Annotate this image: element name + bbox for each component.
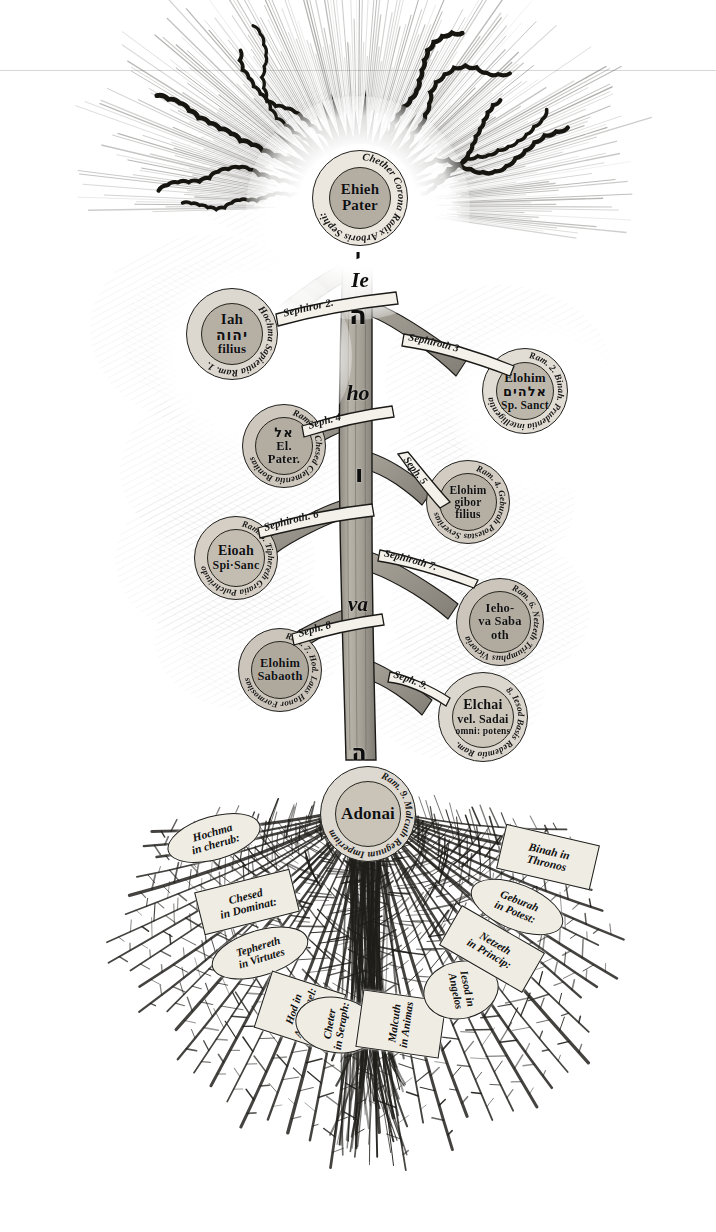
iesod-core-2: vel. Sadai (456, 713, 511, 726)
geburah-core-2: gibor (450, 496, 487, 508)
sephira-chesed[interactable]: Ram. 3. Chesed Clementia Bonitas אל El. … (242, 404, 326, 488)
trunk-glyph-he-second: ה (338, 740, 380, 765)
tiphereth-core-1: Eioah (213, 544, 260, 559)
trunk-glyph-yod: י (338, 244, 378, 266)
hod-core-1: Elohim (257, 657, 302, 670)
iesod-core-3: omni: potens (456, 726, 511, 736)
binah-core-2: Sp. Sanct (501, 399, 549, 411)
geburah-core-3: filius (450, 508, 487, 520)
hochma-core-1: Iah (216, 312, 248, 328)
sephira-chether[interactable]: Chether Corona Radix Arboris Sephi: Ehie… (312, 150, 408, 246)
sephira-binah[interactable]: Ram. 2. Binah. Prudentia intelligentia E… (482, 348, 568, 434)
netzeth-core-2: va Saba (478, 615, 521, 628)
binah-hebrew: אלהים (501, 385, 549, 399)
trunk-glyph-va: va (334, 592, 382, 617)
trunk-glyph-ho: ho (334, 380, 382, 406)
chesed-core-2: Pater. (268, 453, 300, 466)
hod-core-2: Sabaoth (257, 670, 302, 683)
sephira-tiphereth[interactable]: Ram. 5. Tiphereth Gratia Pulchritudo Eio… (194, 516, 278, 600)
sephira-iesod[interactable]: 8. Iesod Basis Redemtio Ram. Elchai vel.… (438, 672, 528, 762)
sephira-netzeth[interactable]: Ram. 6. Netzeth Triumphus Victoria Ieho-… (456, 578, 544, 666)
engraving-plate: Chether Corona Radix Arboris Sephi: Ehie… (0, 0, 716, 1232)
trunk-glyph-vav: ו (338, 460, 380, 488)
geburah-core-1: Elohim (450, 484, 487, 496)
sephira-hochma[interactable]: Hochma Sapientia Ram. 1. Iah יהוה filius (186, 288, 278, 380)
binah-core-1: Elohim (501, 371, 549, 385)
sephira-hod[interactable]: Ram. 7. Hod. Laus Honor Formositas Elohi… (238, 628, 322, 712)
chesed-core-1: El. (268, 440, 300, 453)
netzeth-core-3: oth (478, 629, 521, 642)
iesod-core-1: Elchai (456, 698, 511, 713)
hochma-hebrew: יהוה (216, 328, 248, 343)
sephira-geburah[interactable]: Ram. 4. Geburah Potestas Severitas Elohi… (426, 460, 510, 544)
hochma-core-2: filius (216, 342, 248, 356)
netzeth-core-1: Ieho- (478, 602, 521, 615)
tiphereth-core-2: Spi·Sanc (213, 559, 260, 572)
trunk-glyph-ie: Ie (338, 268, 382, 293)
malcuth-core-1: Adonai (341, 805, 395, 823)
chether-core-2: Pater (341, 198, 380, 214)
chesed-hebrew: אל (268, 426, 300, 440)
trunk-glyph-he-first: ה (336, 300, 380, 330)
chether-core-1: Ehieh (341, 182, 380, 198)
sephira-malcuth[interactable]: Ram. 9. Malcuth Regnum Imperium Adonai (320, 766, 416, 862)
